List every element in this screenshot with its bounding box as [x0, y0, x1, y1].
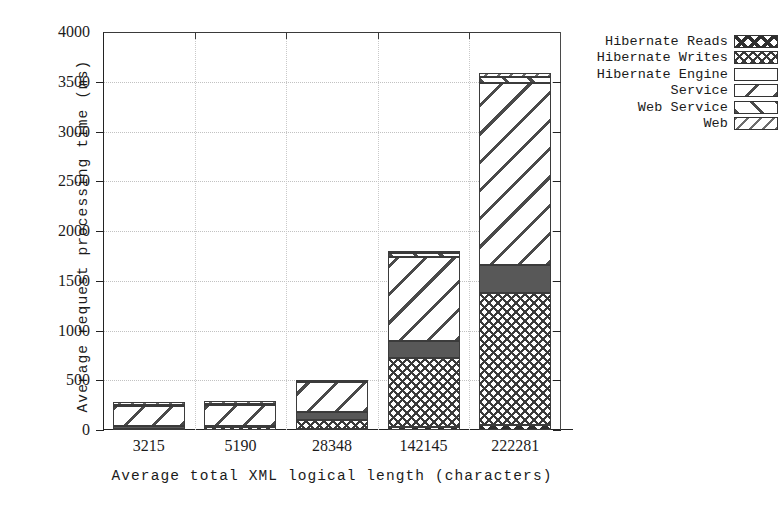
fine-diagonal-pattern-swatch: [734, 117, 778, 130]
legend-item-label: Hibernate Writes: [597, 50, 728, 65]
top-axis-tick: [195, 32, 196, 39]
y-axis-tick-right: [553, 231, 561, 232]
legend-item-label: Hibernate Reads: [605, 34, 728, 49]
bar-segment: [113, 402, 185, 404]
gridline-vertical: [195, 32, 196, 430]
bar-segment: [479, 293, 551, 424]
solid-dark-swatch: [734, 68, 778, 81]
bar-segment: [388, 251, 460, 253]
bar-segment: [479, 77, 551, 83]
y-axis-tick-right: [553, 82, 561, 83]
bar-segment: [479, 83, 551, 265]
gridline-vertical: [286, 32, 287, 430]
y-axis-tick-right: [553, 281, 561, 282]
bar-stack: [204, 403, 276, 430]
bar-segment: [113, 406, 185, 426]
y-axis-tick: [96, 231, 104, 232]
bar-segment: [388, 427, 460, 430]
x-axis-tick-label: 3215: [99, 437, 199, 455]
y-axis-tick: [96, 82, 104, 83]
y-axis-tick-label: 4000: [20, 24, 90, 40]
bar-segment: [113, 426, 185, 428]
y-axis-tick: [96, 380, 104, 381]
bold-x-pattern-swatch: [734, 35, 778, 48]
bar-stack: [296, 381, 368, 430]
bar-chart: Average request processing time (ms) 050…: [0, 0, 783, 513]
y-axis-tick-label: 500: [20, 372, 90, 388]
y-axis-tick-label: 3000: [20, 124, 90, 140]
y-axis-tick: [96, 430, 104, 431]
x-axis-tick-label: 142145: [374, 437, 474, 455]
bar-segment: [296, 382, 368, 412]
bar-segment: [296, 412, 368, 419]
y-axis-tick-right: [553, 132, 561, 133]
legend-item: Hibernate Engine: [588, 66, 778, 82]
forwardslash-pattern-swatch: [734, 101, 778, 114]
legend-item-label: Web Service: [638, 100, 728, 115]
legend-item: Hibernate Writes: [588, 50, 778, 66]
x-axis-tick-label: 222281: [465, 437, 565, 455]
y-axis-tick-right: [553, 380, 561, 381]
legend-item: Hibernate Reads: [588, 33, 778, 49]
y-axis-tick-right: [553, 331, 561, 332]
crosshatch-pattern-swatch: [734, 51, 778, 64]
y-axis-tick: [96, 281, 104, 282]
legend: Hibernate ReadsHibernate WritesHibernate…: [588, 33, 778, 132]
y-axis-tick-label: 2500: [20, 173, 90, 189]
backslash-pattern-swatch: [734, 84, 778, 97]
top-axis-tick: [286, 32, 287, 39]
bar-segment: [204, 401, 276, 403]
bar-segment: [296, 380, 368, 382]
legend-item-label: Hibernate Engine: [597, 67, 728, 82]
gridline-vertical: [378, 32, 379, 430]
y-axis-tick-right: [553, 181, 561, 182]
x-axis-tick-label: 28348: [282, 437, 382, 455]
top-axis-tick: [378, 32, 379, 39]
bar-segment: [296, 420, 368, 429]
y-axis-tick: [96, 132, 104, 133]
legend-item: Web Service: [588, 99, 778, 115]
bar-segment: [479, 265, 551, 293]
y-axis-tick-label: 1500: [20, 273, 90, 289]
gridline-vertical: [469, 32, 470, 430]
bar-segment: [388, 257, 460, 342]
bar-segment: [479, 73, 551, 77]
bar-segment: [204, 405, 276, 426]
y-axis-tick-right: [553, 430, 561, 431]
bar-segment: [388, 341, 460, 358]
bar-segment: [204, 426, 276, 429]
y-axis-tick: [96, 331, 104, 332]
y-axis-tick-label: 2000: [20, 223, 90, 239]
legend-item-label: Web: [703, 116, 728, 131]
x-axis-title: Average total XML logical length (charac…: [103, 468, 561, 484]
bar-stack: [479, 73, 551, 430]
y-axis-tick-label: 3500: [20, 74, 90, 90]
y-axis-tick: [96, 181, 104, 182]
bar-segment: [388, 358, 460, 427]
bar-segment: [479, 425, 551, 430]
bar-stack: [388, 251, 460, 430]
legend-item-label: Service: [671, 83, 728, 98]
y-axis-tick-label: 0: [20, 422, 90, 438]
legend-item: Web: [588, 116, 778, 132]
bar-segment: [388, 253, 460, 256]
top-axis-tick: [469, 32, 470, 39]
bar-stack: [113, 404, 185, 430]
y-axis-tick-label: 1000: [20, 323, 90, 339]
legend-item: Service: [588, 83, 778, 99]
x-axis-tick-label: 5190: [190, 437, 290, 455]
